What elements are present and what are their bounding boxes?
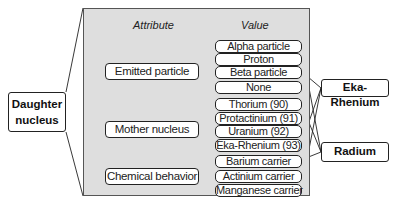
attribute-chemical-behavior[interactable]: Chemical behavior (105, 168, 199, 185)
value-header: Value (241, 19, 269, 31)
daughter-nucleus-label-1: Daughter (9, 96, 65, 112)
value-actinium-carrier[interactable]: Actinium carrier (215, 170, 302, 183)
daughter-nucleus-box: Daughter nucleus (8, 92, 66, 132)
value-alpha-particle[interactable]: Alpha particle (215, 40, 302, 53)
attribute-mother-nucleus[interactable]: Mother nucleus (105, 121, 199, 138)
value-none[interactable]: None (215, 81, 302, 94)
attribute-header: Attribute (133, 19, 174, 31)
output-eka-rhenium[interactable]: Eka-Rhenium (321, 79, 389, 97)
value-barium-carrier[interactable]: Barium carrier (215, 155, 302, 168)
value-proton[interactable]: Proton (215, 53, 302, 66)
output-radium[interactable]: Radium (321, 142, 389, 162)
value-eka-rhenium-93[interactable]: Eka-Rhenium (93) (215, 139, 302, 152)
daughter-nucleus-label-2: nucleus (9, 112, 65, 128)
value-manganese-carrier[interactable]: Manganese carrier (215, 184, 302, 197)
value-protactinium[interactable]: Protactinium (91) (215, 112, 302, 125)
value-uranium[interactable]: Uranium (92) (215, 125, 302, 138)
attribute-value-panel: Attribute Value Emitted particle Mother … (83, 8, 310, 196)
attribute-emitted-particle[interactable]: Emitted particle (105, 63, 199, 80)
value-beta-particle[interactable]: Beta particle (215, 66, 302, 79)
value-thorium[interactable]: Thorium (90) (215, 98, 302, 111)
